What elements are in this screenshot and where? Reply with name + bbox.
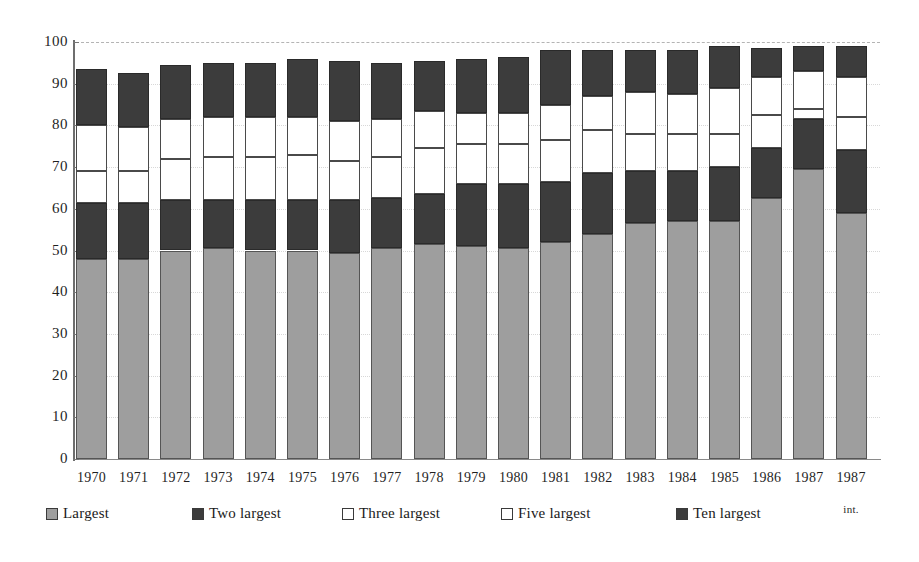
- y-axis-tick-label: 50: [28, 243, 68, 258]
- bar-segment-five-largest: [456, 113, 487, 144]
- bar-1975[interactable]: [287, 42, 318, 459]
- legend-item-two[interactable]: Two largest: [192, 505, 281, 522]
- bar-segment-largest: [76, 259, 107, 459]
- bar-segment-largest: [160, 251, 191, 460]
- bar-1979[interactable]: [456, 42, 487, 459]
- bar-segment-two-largest: [751, 148, 782, 198]
- bar-1987[interactable]: [793, 42, 824, 459]
- bar-segment-two-largest: [371, 198, 402, 248]
- legend-item-three[interactable]: Three largest: [342, 505, 440, 522]
- y-axis-tick-label: 60: [28, 201, 68, 216]
- y-axis-tick-label: 90: [28, 76, 68, 91]
- legend-swatch-icon: [676, 508, 688, 520]
- x-axis-tick-label-main: 1984: [668, 470, 697, 485]
- bar-segment-two-largest: [793, 119, 824, 169]
- bar-segment-ten-largest: [582, 50, 613, 96]
- bar-segment-five-largest: [498, 113, 529, 144]
- bar-segment-five-largest: [329, 121, 360, 161]
- legend-item-label: Three largest: [359, 505, 440, 522]
- legend-item-label: Ten largest: [693, 505, 761, 522]
- bar-segment-three-largest: [625, 134, 656, 172]
- bar-1984[interactable]: [667, 42, 698, 459]
- bar-segment-five-largest: [203, 117, 234, 157]
- bar-segment-three-largest: [793, 109, 824, 119]
- bar-segment-largest: [836, 213, 867, 459]
- bar-segment-five-largest: [836, 77, 867, 117]
- bar-1985[interactable]: [709, 42, 740, 459]
- y-axis-tick-label: 0: [28, 451, 68, 466]
- legend-item-largest[interactable]: Largest: [46, 505, 109, 522]
- bar-1971[interactable]: [118, 42, 149, 459]
- bar-segment-three-largest: [414, 148, 445, 194]
- bar-1972[interactable]: [160, 42, 191, 459]
- bar-segment-five-largest: [793, 71, 824, 109]
- bar-1973[interactable]: [203, 42, 234, 459]
- y-axis-tick-label: 70: [28, 159, 68, 174]
- bar-segment-three-largest: [456, 144, 487, 184]
- x-axis-tick-label-main: 1974: [246, 470, 275, 485]
- bar-segment-ten-largest: [414, 61, 445, 111]
- stacked-bar-chart: 0102030405060708090100 19701971197219731…: [0, 0, 919, 562]
- bar-1981[interactable]: [540, 42, 571, 459]
- bar-segment-five-largest: [709, 88, 740, 134]
- x-axis-line: [73, 459, 881, 460]
- bar-segment-two-largest: [329, 200, 360, 252]
- legend-item-ten[interactable]: Ten largest: [676, 505, 761, 522]
- bar-segment-largest: [329, 253, 360, 459]
- bar-segment-two-largest: [414, 194, 445, 244]
- bar-1977[interactable]: [371, 42, 402, 459]
- bar-segment-largest: [456, 246, 487, 459]
- legend-item-label: Five largest: [518, 505, 591, 522]
- bar-1974[interactable]: [245, 42, 276, 459]
- x-axis-tick-label-main: 1981: [541, 470, 570, 485]
- bar-1987-int-[interactable]: [836, 42, 867, 459]
- bar-1980[interactable]: [498, 42, 529, 459]
- bar-segment-two-largest: [245, 200, 276, 250]
- bar-segment-three-largest: [76, 171, 107, 202]
- bar-segment-ten-largest: [456, 59, 487, 113]
- bar-segment-largest: [414, 244, 445, 459]
- legend-item-label: Two largest: [209, 505, 281, 522]
- bar-segment-largest: [751, 198, 782, 459]
- bar-segment-two-largest: [540, 182, 571, 242]
- bar-1983[interactable]: [625, 42, 656, 459]
- bar-1976[interactable]: [329, 42, 360, 459]
- bar-segment-two-largest: [287, 200, 318, 250]
- bar-1986[interactable]: [751, 42, 782, 459]
- bar-segment-three-largest: [836, 117, 867, 150]
- legend-item-five[interactable]: Five largest: [501, 505, 591, 522]
- x-axis-tick-label-main: 1977: [372, 470, 401, 485]
- bar-segment-two-largest: [76, 203, 107, 259]
- bar-segment-three-largest: [709, 134, 740, 167]
- bar-segment-ten-largest: [245, 63, 276, 117]
- bar-segment-largest: [287, 251, 318, 460]
- bar-segment-largest: [498, 248, 529, 459]
- bar-1970[interactable]: [76, 42, 107, 459]
- bar-segment-five-largest: [371, 119, 402, 157]
- y-axis-tick-mark: [73, 459, 79, 460]
- bar-segment-five-largest: [625, 92, 656, 134]
- bar-segment-five-largest: [118, 127, 149, 171]
- bar-1978[interactable]: [414, 42, 445, 459]
- bar-segment-ten-largest: [751, 48, 782, 77]
- bar-1982[interactable]: [582, 42, 613, 459]
- bar-segment-two-largest: [160, 200, 191, 250]
- x-axis-tick-label-main: 1982: [583, 470, 612, 485]
- bar-segment-two-largest: [709, 167, 740, 221]
- bar-segment-three-largest: [582, 130, 613, 174]
- bar-segment-five-largest: [540, 105, 571, 140]
- bar-segment-largest: [371, 248, 402, 459]
- bar-segment-ten-largest: [498, 57, 529, 113]
- legend-swatch-icon: [46, 508, 58, 520]
- bar-segment-largest: [667, 221, 698, 459]
- bar-segment-two-largest: [456, 184, 487, 247]
- bar-segment-ten-largest: [836, 46, 867, 77]
- bar-segment-largest: [793, 169, 824, 459]
- plot-area: [76, 42, 880, 459]
- bar-segment-two-largest: [498, 184, 529, 249]
- y-axis-tick-label: 40: [28, 284, 68, 299]
- x-axis-tick-label-main: 1987: [836, 470, 865, 485]
- bar-segment-two-largest: [836, 150, 867, 213]
- x-axis-tick-label-main: 1975: [288, 470, 317, 485]
- bar-segment-five-largest: [414, 111, 445, 149]
